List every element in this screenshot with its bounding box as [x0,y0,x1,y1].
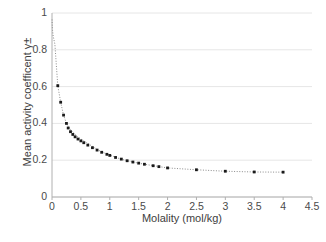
axis-lines [52,13,312,197]
x-tick-label: 2.5 [181,200,211,212]
x-tick-label: 1.5 [124,200,154,212]
data-point [253,171,256,174]
data-point [59,101,62,104]
data-point [100,151,103,154]
data-point [108,154,111,157]
x-tick-label: 1 [95,200,125,212]
data-point [62,114,65,117]
series-line [52,19,283,172]
data-point [224,170,227,173]
x-tick-label: 2 [153,200,183,212]
data-point [56,84,59,87]
data-point [137,162,140,165]
x-tick-label: 3 [210,200,240,212]
data-point [120,158,123,161]
x-axis-title: Molality (mol/kg) [52,212,312,224]
data-point [65,122,68,125]
data-point [86,144,89,147]
data-point [131,161,134,164]
data-point [282,171,285,174]
data-point [69,130,72,133]
data-point [82,141,85,144]
data-point [96,149,99,152]
data-point [166,167,169,170]
data-point [91,146,94,149]
series-polyline [52,19,283,172]
x-tick-label: 4.5 [297,200,326,212]
chart-container: 10.80.60.40.20 00.511.522.533.544.5 Mola… [0,0,326,242]
x-tick-label: 3.5 [239,200,269,212]
data-point [126,159,129,162]
y-axis-title: Mean activity coefficent γ± [21,2,33,202]
data-point [74,135,77,138]
data-point [71,133,74,136]
x-tick-label: 0.5 [66,200,96,212]
data-point [152,164,155,167]
data-point [79,139,82,142]
x-tick-label: 4 [268,200,298,212]
x-tick-label: 0 [37,200,67,212]
data-point [114,156,117,159]
data-point [195,168,198,171]
data-point [157,165,160,168]
gridlines [52,13,312,197]
data-point [67,127,70,130]
data-point [77,138,80,141]
data-point [143,163,146,166]
data-point [105,153,108,156]
